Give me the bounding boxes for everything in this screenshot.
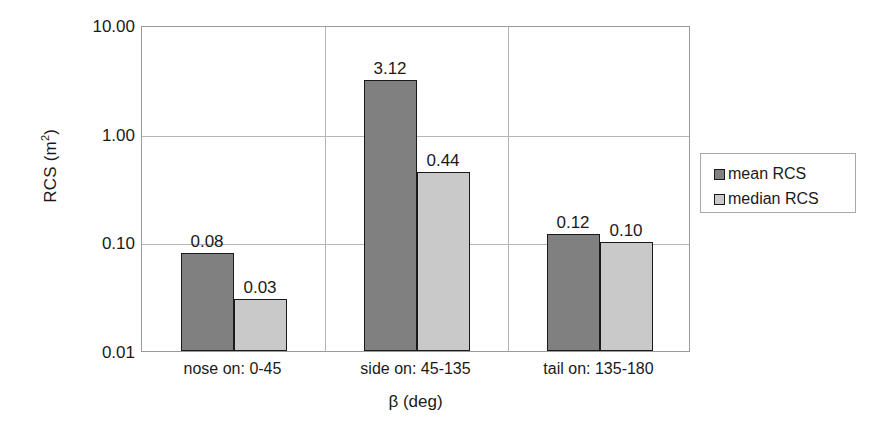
legend-swatch-icon	[714, 194, 725, 205]
plot-area: 0.080.033.120.440.120.10	[141, 26, 690, 352]
bar-mean	[547, 234, 600, 351]
x-axis-tick-label: nose on: 0-45	[141, 360, 324, 377]
vertical-gridline	[325, 27, 326, 351]
legend-item: median RCS	[714, 191, 819, 207]
bar-value-label: 0.10	[592, 222, 661, 239]
bar-mean	[181, 253, 234, 351]
legend-item: mean RCS	[714, 166, 806, 182]
bar-value-label: 3.12	[356, 60, 425, 77]
y-axis-tick-label: 0.01	[59, 344, 135, 361]
x-axis-tick-label: side on: 45-135	[324, 360, 507, 377]
y-axis-ticks: 10.001.000.100.01	[55, 0, 135, 438]
bar-value-label: 0.08	[173, 233, 242, 250]
bar-median	[600, 242, 653, 351]
bar-median	[417, 172, 470, 351]
vertical-gridline	[508, 27, 509, 351]
bar-mean	[364, 80, 417, 351]
legend-item-label: median RCS	[728, 191, 819, 207]
x-axis-tick-label: tail on: 135-180	[507, 360, 690, 377]
y-axis-tick-label: 10.00	[59, 18, 135, 35]
rcs-bar-chart: RCS (m2) 10.001.000.100.01 0.080.033.120…	[0, 0, 887, 438]
x-axis-title: β (deg)	[141, 392, 690, 412]
y-axis-tick-label: 1.00	[59, 127, 135, 144]
bar-median	[234, 299, 287, 351]
legend-swatch-icon	[714, 169, 725, 180]
y-axis-tick-label: 0.10	[59, 235, 135, 252]
legend: mean RCSmedian RCS	[700, 153, 856, 213]
bar-value-label: 0.44	[409, 152, 478, 169]
bar-value-label: 0.03	[226, 279, 295, 296]
y-axis-title-exponent: 2	[39, 135, 51, 141]
legend-item-label: mean RCS	[728, 166, 806, 182]
